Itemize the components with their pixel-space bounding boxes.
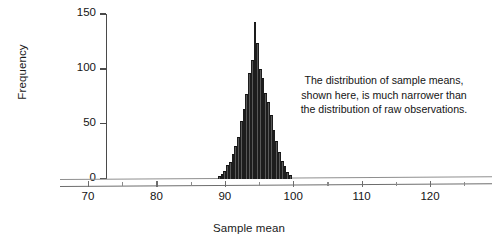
x-axis-tick — [293, 181, 294, 187]
chart-annotation: The distribution of sample means, shown … — [276, 73, 492, 117]
annotation-line-1: The distribution of sample means, — [276, 73, 492, 88]
histogram-bar — [289, 175, 292, 178]
x-axis-minor-tick — [191, 182, 192, 186]
x-axis-minor-tick — [122, 182, 123, 186]
x-axis-tick-label: 110 — [342, 190, 382, 202]
x-axis-tick — [430, 181, 431, 187]
plot-area: 050100150708090100110120 — [0, 0, 498, 251]
x-axis-tick-label: 70 — [68, 190, 108, 202]
x-axis-tick-label: 100 — [273, 190, 313, 202]
x-axis-tick-label: 80 — [136, 190, 176, 202]
x-axis-tick — [156, 181, 157, 187]
x-axis-tick-label: 120 — [410, 190, 450, 202]
x-axis-tick-label: 90 — [205, 190, 245, 202]
histogram-figure: 050100150708090100110120 Frequency Sampl… — [0, 0, 498, 251]
annotation-line-2: shown here, is much narrower than — [276, 88, 492, 103]
x-axis-minor-tick — [327, 182, 328, 186]
x-axis-minor-tick — [259, 182, 260, 186]
x-axis-minor-tick — [396, 182, 397, 186]
x-axis-tick — [362, 181, 363, 187]
x-axis-tick — [88, 181, 89, 187]
y-axis-title: Frequency — [16, 2, 28, 142]
annotation-line-3: the distribution of raw observations. — [276, 102, 492, 117]
x-axis-line — [60, 183, 492, 187]
x-axis-title: Sample mean — [0, 222, 498, 234]
x-axis-tick — [225, 181, 226, 187]
x-axis-minor-tick — [464, 182, 465, 186]
